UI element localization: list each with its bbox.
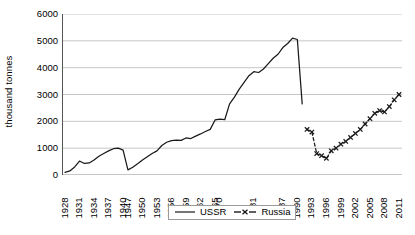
x-axis-tick-label: 1931	[74, 197, 84, 218]
x-axis-tick-label: 1950	[137, 197, 147, 218]
y-axis-title: thousand tonnes	[0, 0, 18, 182]
x-axis-tick-label: 1953	[151, 197, 161, 218]
legend-item-ussr: USSR	[174, 207, 226, 217]
data-point-marker	[368, 116, 372, 120]
data-point-marker	[344, 139, 348, 143]
y-axis-title-label: thousand tonnes	[4, 55, 15, 127]
y-axis-tick-label: 2000	[18, 117, 58, 127]
data-point-marker	[363, 122, 367, 126]
legend-swatch-dashed-marker	[233, 207, 257, 217]
data-point-marker	[353, 131, 357, 135]
data-point-marker	[358, 127, 362, 131]
x-axis-tick-label: 1934	[88, 197, 98, 218]
y-axis-tick-label: 0	[18, 170, 58, 180]
legend-label-russia: Russia	[261, 207, 290, 217]
series-line-russia	[307, 95, 399, 159]
data-point-marker	[348, 135, 352, 139]
legend-label-ussr: USSR	[200, 207, 226, 217]
y-axis-tick-label: 1000	[18, 143, 58, 153]
x-axis-tick-label: 1937	[103, 197, 113, 218]
data-point-marker	[392, 98, 396, 102]
data-point-marker	[324, 156, 328, 160]
y-axis-tick-label: 4000	[18, 63, 58, 73]
x-axis-tick-label: 2008	[379, 197, 389, 218]
y-axis-tick-labels: 0100020003000400050006000	[18, 0, 58, 182]
data-point-marker	[387, 104, 391, 108]
x-axis-tick-label: 2011	[393, 198, 403, 218]
y-axis-tick-label: 6000	[18, 9, 58, 19]
data-point-marker	[319, 153, 323, 157]
x-axis-tick-label: 1999	[335, 197, 345, 218]
legend-swatch-solid-line	[174, 207, 196, 217]
series-line-ussr	[65, 38, 302, 172]
x-axis-tick-label: 2005	[364, 197, 374, 218]
chart-legend: USSR Russia	[168, 205, 296, 220]
x-axis-tick-label: 1928	[59, 197, 69, 218]
x-axis-tick-label: 2002	[350, 197, 360, 218]
y-axis-tick-label: 5000	[18, 36, 58, 46]
legend-item-russia: Russia	[233, 207, 290, 217]
x-axis-tick-label: 1993	[306, 197, 316, 218]
x-axis-tick-label: 1996	[320, 197, 330, 218]
x-axis-tick-label: 1947	[122, 197, 132, 218]
data-point-marker	[329, 149, 333, 153]
data-point-marker	[373, 111, 377, 115]
data-point-marker	[305, 127, 309, 131]
plot-area	[62, 14, 402, 175]
plot-svg	[62, 14, 402, 175]
y-axis-tick-label: 3000	[18, 90, 58, 100]
chart-container: thousand tonnes 010002000300040005000600…	[0, 0, 415, 235]
data-point-marker	[339, 142, 343, 146]
